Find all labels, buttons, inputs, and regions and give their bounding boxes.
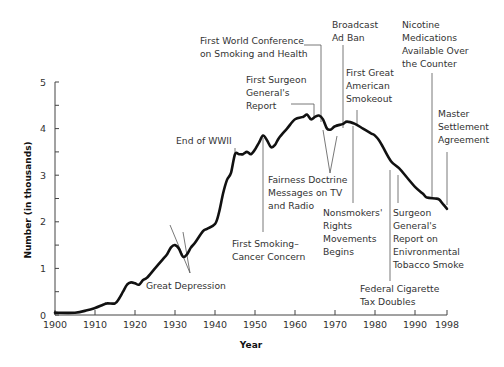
annotation-text: Medications xyxy=(402,32,457,43)
annotation-text: End of WWII xyxy=(176,135,232,146)
annotation-text: Settlement xyxy=(438,121,489,132)
y-axis-title: Number (in thousands) xyxy=(23,141,33,258)
x-tick-label: 1900 xyxy=(43,319,67,330)
annotation-federal-cigarette-tax: Federal CigaretteTax Doubles xyxy=(359,283,440,307)
y-tick-label: 4 xyxy=(40,123,46,134)
annotation-text: Great Depression xyxy=(146,280,226,291)
annotation-fairness-doctrine: Fairness DoctrineMessages on TVand Radio xyxy=(268,174,348,211)
annotation-text: General's xyxy=(246,87,290,98)
annotation-text: Ad Ban xyxy=(332,32,365,43)
annotation-nicotine-medications: NicotineMedicationsAvailable Overthe Cou… xyxy=(402,19,469,69)
annotation-master-settlement: MasterSettlementAgreement xyxy=(438,108,489,145)
annotation-text: Fairness Doctrine xyxy=(268,174,348,185)
x-tick-label: 1960 xyxy=(283,319,307,330)
annotations: Great DepressionEnd of WWIIFirst Smoking… xyxy=(146,19,489,307)
annotation-text: Available Over xyxy=(402,45,469,56)
annotation-first-surgeon-general-report: First SurgeonGeneral'sReport xyxy=(246,74,307,111)
annotation-surgeon-general-ets-report: SurgeonGeneral'sReport onEnivronmentalTo… xyxy=(392,207,464,270)
annotation-text: First Great xyxy=(346,67,394,78)
x-tick-label: 1930 xyxy=(163,319,187,330)
annotation-great-depression: Great Depression xyxy=(146,280,226,291)
line-chart: 0123451900191019201930194019501960197019… xyxy=(0,0,504,367)
x-tick-label: 1920 xyxy=(123,319,147,330)
x-tick-label: 1990 xyxy=(403,319,427,330)
annotation-first-world-conference: First World Conferenceon Smoking and Hea… xyxy=(200,35,308,59)
annotation-text: General's xyxy=(393,220,437,231)
annotation-broadcast-ad-ban: BroadcastAd Ban xyxy=(332,19,378,43)
annotation-text: Smokeout xyxy=(346,93,392,104)
x-axis-title: Year xyxy=(239,340,263,350)
y-tick-label: 5 xyxy=(40,77,46,88)
annotation-text: Tobacco Smoke xyxy=(392,259,464,270)
annotation-text: Enivronmental xyxy=(393,246,460,257)
y-tick-label: 3 xyxy=(40,170,46,181)
annotation-text: and Radio xyxy=(268,200,314,211)
annotation-text: First Surgeon xyxy=(246,74,307,85)
annotation-text: Agreement xyxy=(438,134,489,145)
x-tick-label: 1940 xyxy=(203,319,227,330)
x-tick-label: 1998 xyxy=(435,319,459,330)
annotation-nonsmokers-rights: Nonsmokers'RightsMovementsBegins xyxy=(323,207,382,257)
y-tick-label: 1 xyxy=(40,263,46,274)
annotation-text: Movements xyxy=(323,233,377,244)
annotation-text: First World Conference xyxy=(200,35,304,46)
x-tick-label: 1970 xyxy=(323,319,347,330)
annotation-text: Nicotine xyxy=(402,19,440,30)
annotation-text: Begins xyxy=(323,246,354,257)
annotation-text: Cancer Concern xyxy=(232,251,305,262)
annotation-text: Broadcast xyxy=(332,19,378,30)
annotation-text: Nonsmokers' xyxy=(323,207,382,218)
annotation-text: on Smoking and Health xyxy=(200,48,308,59)
x-tick-label: 1910 xyxy=(83,319,107,330)
annotation-text: Tax Doubles xyxy=(359,296,416,307)
annotation-text: Report xyxy=(246,100,277,111)
annotation-end-of-wwii: End of WWII xyxy=(176,135,232,146)
leader-line xyxy=(330,136,337,173)
annotation-first-great-american-smokeout: First GreatAmericanSmokeout xyxy=(346,67,394,104)
annotation-text: Surgeon xyxy=(393,207,431,218)
annotation-text: American xyxy=(346,80,390,91)
annotation-text: Rights xyxy=(323,220,352,231)
annotation-text: Messages on TV xyxy=(268,187,343,198)
annotation-text: First Smoking– xyxy=(232,238,299,249)
y-tick-label: 2 xyxy=(40,216,46,227)
annotation-first-smoking-cancer-concern: First Smoking–Cancer Concern xyxy=(232,238,305,262)
x-tick-label: 1950 xyxy=(243,319,267,330)
annotation-text: the Counter xyxy=(402,58,457,69)
annotation-text: Federal Cigarette xyxy=(360,283,440,294)
annotation-text: Report on xyxy=(393,233,438,244)
annotation-text: Master xyxy=(438,108,470,119)
x-tick-label: 1980 xyxy=(363,319,387,330)
leader-line xyxy=(323,130,330,173)
